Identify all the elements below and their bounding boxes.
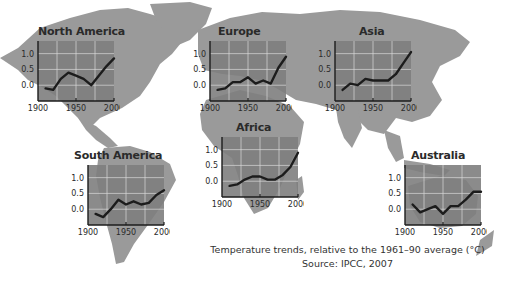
caption-source: Source: IPCC, 2007 xyxy=(95,258,505,269)
svg-text:1.0: 1.0 xyxy=(193,50,206,59)
svg-text:2000: 2000 xyxy=(154,228,170,237)
svg-text:1.0: 1.0 xyxy=(205,146,218,155)
svg-text:2000: 2000 xyxy=(401,104,417,113)
svg-text:1.0: 1.0 xyxy=(388,174,401,183)
svg-text:1900: 1900 xyxy=(28,104,48,113)
svg-text:0.0: 0.0 xyxy=(205,177,218,186)
svg-text:1.0: 1.0 xyxy=(318,50,331,59)
svg-text:1900: 1900 xyxy=(212,200,232,209)
svg-text:2000: 2000 xyxy=(276,104,292,113)
chart-title: South America xyxy=(74,149,162,162)
svg-text:0.5: 0.5 xyxy=(205,161,218,170)
chart-south-america: South America 0.00.51.0190019502000 xyxy=(58,148,170,240)
svg-text:0.5: 0.5 xyxy=(193,65,206,74)
svg-text:0.0: 0.0 xyxy=(388,205,401,214)
chart-title: Asia xyxy=(359,25,384,38)
svg-text:1.0: 1.0 xyxy=(21,50,34,59)
svg-text:2000: 2000 xyxy=(288,200,304,209)
svg-text:0.5: 0.5 xyxy=(388,189,401,198)
svg-text:1900: 1900 xyxy=(200,104,220,113)
svg-text:1950: 1950 xyxy=(116,228,136,237)
svg-text:1900: 1900 xyxy=(395,228,415,237)
chart-title: North America xyxy=(38,25,125,38)
chart-title: Australia xyxy=(411,149,465,162)
svg-text:1950: 1950 xyxy=(433,228,453,237)
svg-text:2000: 2000 xyxy=(471,228,487,237)
chart-title: Africa xyxy=(236,121,271,134)
svg-text:1900: 1900 xyxy=(325,104,345,113)
svg-text:0.0: 0.0 xyxy=(193,81,206,90)
chart-north-america: North America 0.00.51.0190019502000 xyxy=(8,24,120,116)
svg-text:0.0: 0.0 xyxy=(318,81,331,90)
svg-text:1950: 1950 xyxy=(363,104,383,113)
svg-text:0.0: 0.0 xyxy=(21,81,34,90)
svg-text:0.5: 0.5 xyxy=(318,65,331,74)
caption-title: Temperature trends, relative to the 1961… xyxy=(95,244,505,255)
chart-asia: Asia 0.00.51.0190019502000 xyxy=(305,24,417,116)
svg-text:1950: 1950 xyxy=(238,104,258,113)
svg-text:2000: 2000 xyxy=(104,104,120,113)
svg-text:1.0: 1.0 xyxy=(71,174,84,183)
svg-text:1950: 1950 xyxy=(250,200,270,209)
svg-text:0.0: 0.0 xyxy=(71,205,84,214)
svg-text:1900: 1900 xyxy=(78,228,98,237)
svg-text:1950: 1950 xyxy=(66,104,86,113)
svg-text:0.5: 0.5 xyxy=(21,65,34,74)
svg-text:0.5: 0.5 xyxy=(71,189,84,198)
chart-africa: Africa 0.00.51.0190019502000 xyxy=(192,120,304,212)
chart-europe: Europe 0.00.51.0190019502000 xyxy=(180,24,292,116)
chart-title: Europe xyxy=(218,25,260,38)
chart-australia: Australia 0.00.51.0190019502000 xyxy=(375,148,487,240)
